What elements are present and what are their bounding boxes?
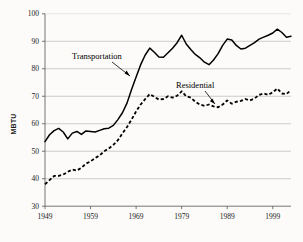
- y-tick-labels-group: 10090807060504030: [28, 9, 40, 210]
- x-tick-label-1979: 1979: [174, 212, 189, 221]
- x-tick-label-1989: 1989: [220, 212, 235, 221]
- series-line-residential: [45, 89, 291, 185]
- annotation-label-residential: Residential: [176, 80, 215, 90]
- x-tick-label-1999: 1999: [265, 212, 280, 221]
- y-tick-label-80: 80: [32, 64, 40, 73]
- x-tick-label-1969: 1969: [129, 212, 144, 221]
- series-line-transportation: [45, 29, 291, 141]
- chart-container: 10090807060504030 1949195919691979198919…: [0, 0, 303, 242]
- y-tick-label-60: 60: [32, 119, 40, 128]
- line-chart-figure: 10090807060504030 1949195919691979198919…: [0, 0, 303, 242]
- y-tickmarks-group: [42, 14, 45, 206]
- annotation-arrowhead-transportation: [125, 70, 130, 76]
- y-tick-label-70: 70: [32, 92, 40, 101]
- y-tick-label-100: 100: [28, 9, 40, 18]
- annotation-label-transportation: Transportation: [72, 51, 122, 61]
- annotation-arrowhead-residential: [210, 99, 215, 104]
- y-tick-label-40: 40: [32, 174, 40, 183]
- y-tick-label-50: 50: [32, 147, 40, 156]
- x-tick-label-1949: 1949: [38, 212, 53, 221]
- x-tick-label-1959: 1959: [83, 212, 98, 221]
- x-tick-labels-group: 194919591969197919891999: [38, 212, 281, 221]
- y-axis-title: MBTU: [10, 113, 17, 134]
- annotation-transportation: Transportation: [72, 51, 130, 76]
- x-tickmarks-group: [45, 206, 273, 209]
- y-tick-label-30: 30: [32, 202, 40, 211]
- y-tick-label-90: 90: [32, 37, 40, 46]
